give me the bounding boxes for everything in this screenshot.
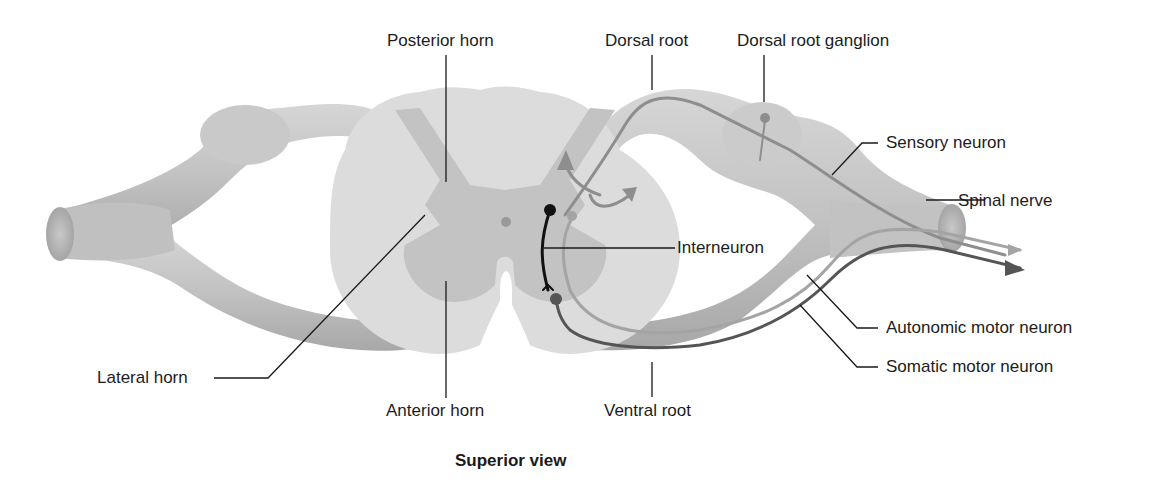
label-autonomic-motor-neuron: Autonomic motor neuron — [886, 318, 1072, 338]
label-dorsal-root-ganglion: Dorsal root ganglion — [737, 31, 889, 51]
figure-caption: Superior view — [455, 451, 566, 471]
label-interneuron: Interneuron — [677, 238, 764, 258]
label-posterior-horn: Posterior horn — [387, 31, 494, 51]
label-sensory-neuron: Sensory neuron — [886, 133, 1006, 153]
spinal-cord-diagram — [0, 0, 1170, 490]
label-lateral-horn: Lateral horn — [97, 368, 188, 388]
central-canal — [501, 217, 511, 227]
label-dorsal-root: Dorsal root — [605, 31, 688, 51]
label-ventral-root: Ventral root — [604, 401, 691, 421]
label-somatic-motor-neuron: Somatic motor neuron — [886, 357, 1053, 377]
label-spinal-nerve: Spinal nerve — [958, 191, 1053, 211]
label-anterior-horn: Anterior horn — [386, 401, 484, 421]
